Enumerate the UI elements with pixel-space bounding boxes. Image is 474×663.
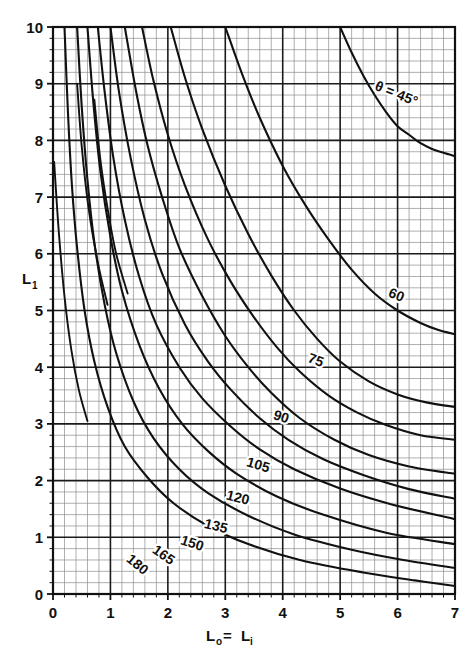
- x-axis-title-lo-subscript: o: [216, 636, 222, 647]
- y-tick-label: 7: [35, 189, 43, 206]
- chart-figure: θ = 45°θ = 45°60607575909010510512012013…: [0, 0, 474, 663]
- y-tick-label: 0: [35, 586, 43, 603]
- y-tick-label: 8: [35, 132, 43, 149]
- y-tick-label: 9: [35, 75, 43, 92]
- x-axis-title-li-subscript: i: [250, 636, 253, 647]
- x-axis-title-li-main: L: [241, 627, 250, 644]
- x-tick-label: 4: [279, 604, 288, 621]
- y-tick-label: 5: [35, 302, 43, 319]
- x-tick-label: 7: [451, 604, 459, 621]
- contour-chart: θ = 45°θ = 45°60607575909010510512012013…: [0, 0, 474, 663]
- y-tick-label: 1: [35, 529, 43, 546]
- y-axis-title-main: L: [22, 270, 31, 287]
- y-axis-title-subscript: 1: [32, 280, 38, 291]
- x-tick-label: 2: [164, 604, 172, 621]
- x-tick-label: 0: [49, 604, 57, 621]
- x-tick-label: 3: [221, 604, 229, 621]
- x-axis-title-equals: =: [223, 627, 232, 644]
- x-tick-label: 5: [336, 604, 344, 621]
- x-tick-label: 6: [393, 604, 401, 621]
- y-tick-label: 3: [35, 415, 43, 432]
- y-tick-label: 10: [26, 19, 43, 36]
- y-tick-label: 6: [35, 245, 43, 262]
- x-tick-label: 1: [106, 604, 114, 621]
- x-axis-title-lo-main: L: [206, 627, 215, 644]
- y-tick-label: 2: [35, 472, 43, 489]
- y-tick-label: 4: [35, 359, 44, 376]
